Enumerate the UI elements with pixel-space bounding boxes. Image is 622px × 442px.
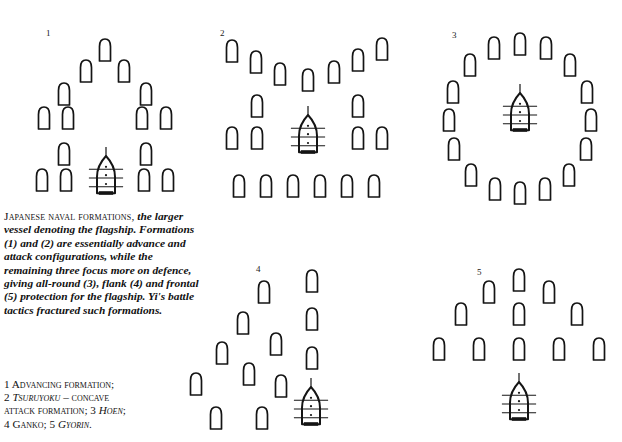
flagship-vessel xyxy=(502,373,536,421)
vessel xyxy=(515,182,526,204)
vessel xyxy=(586,109,597,131)
vessel xyxy=(261,175,272,197)
vessel xyxy=(37,169,48,191)
vessel xyxy=(307,347,318,369)
vessel xyxy=(474,338,485,360)
formation-4-diagram xyxy=(186,252,378,442)
vessel xyxy=(484,281,495,303)
legend-line-3-b: ; xyxy=(123,404,126,416)
flagship-deck-dot xyxy=(518,392,520,394)
formation-1-diagram xyxy=(8,18,204,210)
vessel xyxy=(163,169,174,191)
vessel xyxy=(514,338,525,360)
vessel xyxy=(434,338,445,360)
vessel xyxy=(581,138,592,160)
formation-1 xyxy=(8,18,204,210)
vessel xyxy=(217,342,228,364)
flagship-deck-dot xyxy=(307,125,309,127)
formation-2-diagram xyxy=(208,18,404,210)
flagship-vessel xyxy=(291,106,325,154)
vessel xyxy=(377,38,388,60)
flagship-deck-dot xyxy=(519,103,521,105)
vessel xyxy=(490,178,501,200)
vessel xyxy=(81,60,92,82)
vessel xyxy=(377,127,388,149)
vessel xyxy=(139,169,150,191)
vessel xyxy=(307,270,318,292)
vessel xyxy=(342,175,353,197)
flagship-deck-dot xyxy=(519,111,521,113)
legend-line-2-term: Tsuruyoku xyxy=(12,391,60,403)
vessel xyxy=(137,107,148,129)
flagship-deck-dot xyxy=(307,142,309,144)
vessel xyxy=(541,37,552,59)
flagship-deck-dot xyxy=(519,120,521,122)
vessel xyxy=(59,143,70,165)
formation-3-diagram xyxy=(424,18,616,210)
vessel xyxy=(448,81,459,103)
vessel xyxy=(141,83,152,105)
legend-line-2: 2 Tsuruyoku – concave xyxy=(4,391,204,404)
caption-title: Japanese naval formations, xyxy=(4,210,135,222)
vessel xyxy=(540,178,551,200)
vessel xyxy=(252,127,263,149)
flagship-stern xyxy=(304,422,318,426)
vessel xyxy=(244,363,255,385)
legend-line-3: attack formation; 3 Hoen; xyxy=(4,404,204,417)
vessel xyxy=(564,164,575,186)
vessel xyxy=(466,164,477,186)
caption-body: the larger vessel denoting the flagship.… xyxy=(4,210,199,316)
flagship-stern xyxy=(512,417,526,421)
vessel xyxy=(252,95,263,117)
legend-line-2-rest: – concave xyxy=(60,391,109,403)
vessel xyxy=(59,83,70,105)
vessel xyxy=(449,138,460,160)
formation-5-diagram xyxy=(422,252,618,442)
figure-page: 12345 Japanese naval formations, the lar… xyxy=(0,0,622,442)
vessel xyxy=(514,303,525,325)
vessel xyxy=(353,127,364,149)
flagship-deck-dot xyxy=(105,166,107,168)
figure-legend-list: 1 Advancing formation; 2 Tsuruyoku – con… xyxy=(4,378,204,431)
legend-line-3-a: attack formation; 3 xyxy=(4,404,99,416)
formation-4 xyxy=(186,252,378,442)
flagship-deck-dot xyxy=(307,133,309,135)
vessel xyxy=(227,127,238,149)
vessel xyxy=(141,143,152,165)
vessel xyxy=(257,407,268,429)
vessel xyxy=(489,37,500,59)
figure-caption: Japanese naval formations, the larger ve… xyxy=(4,210,200,317)
vessel xyxy=(303,69,314,91)
vessel xyxy=(514,269,525,291)
legend-line-1: 1 Advancing formation; xyxy=(4,378,204,391)
vessel xyxy=(465,54,476,76)
vessel xyxy=(315,175,326,197)
vessel xyxy=(271,333,282,355)
vessel xyxy=(238,312,249,334)
vessel xyxy=(572,303,583,325)
flagship-deck-dot xyxy=(310,405,312,407)
vessel xyxy=(275,63,286,85)
flagship-deck-dot xyxy=(310,397,312,399)
vessel xyxy=(456,303,467,325)
vessel xyxy=(307,308,318,330)
vessel xyxy=(353,49,364,71)
vessel xyxy=(161,107,172,129)
flagship-vessel xyxy=(294,378,328,426)
flagship-stern xyxy=(99,191,113,195)
legend-line-3-term: Hoen xyxy=(99,404,123,416)
vessel xyxy=(582,81,593,103)
vessel xyxy=(544,281,555,303)
flagship-vessel xyxy=(503,84,537,132)
flagship-deck-dot xyxy=(518,400,520,402)
vessel xyxy=(119,60,130,82)
vessel xyxy=(227,40,238,62)
vessel xyxy=(565,54,576,76)
legend-line-4-term: Gyorin xyxy=(58,418,89,430)
vessel xyxy=(39,107,50,129)
vessel xyxy=(515,33,526,55)
vessel xyxy=(288,175,299,197)
legend-line-4-a: 4 Ganko; 5 xyxy=(4,418,58,430)
vessel xyxy=(594,338,605,360)
flagship-stern xyxy=(513,128,527,132)
